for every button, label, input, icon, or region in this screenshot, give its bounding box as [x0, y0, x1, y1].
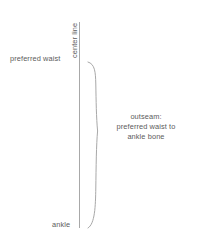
outseam-brace-icon	[88, 62, 98, 228]
ankle-label: ankle	[52, 220, 70, 230]
preferred-waist-label: preferred waist	[10, 54, 60, 64]
outseam-annotation-line-2: preferred waist to	[104, 122, 188, 132]
outseam-annotation-line-3: ankle bone	[104, 132, 188, 142]
outseam-annotation-line-1: outseam:	[104, 112, 188, 122]
center-line-label: center line	[70, 23, 80, 58]
outseam-annotation: outseam: preferred waist to ankle bone	[104, 112, 188, 142]
outseam-diagram: center line preferred waist ankle outsea…	[0, 0, 197, 241]
